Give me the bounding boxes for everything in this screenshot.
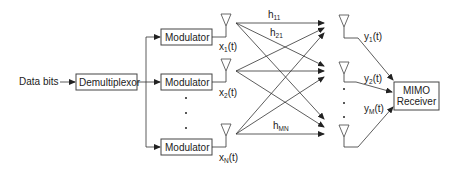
hMN-label: hMN — [273, 120, 289, 132]
y2-label: y2(t) — [364, 73, 382, 85]
tx2-feed — [212, 71, 226, 82]
ellipsis-dot — [185, 127, 187, 129]
rx-antenna-1-icon — [339, 15, 349, 27]
receiver-line2: Receiver — [397, 96, 437, 107]
tx-antenna-2-icon — [221, 59, 231, 71]
modulator-1-label: Modulator — [165, 32, 210, 43]
mimo-system-diagram: Data bits Demultiplexor Modulator Modula… — [0, 0, 458, 169]
demultiplexor-block: Demultiplexor — [76, 74, 141, 90]
h21-label: h21 — [270, 27, 283, 39]
h11-label: h11 — [268, 9, 281, 21]
data-bits-label: Data bits — [19, 76, 58, 87]
tx-antenna-n-icon — [221, 124, 231, 136]
yM-label: yM(t) — [364, 103, 384, 115]
y1-label: y1(t) — [364, 31, 382, 43]
rx-antenna-2-icon — [339, 62, 349, 74]
ellipsis-dot — [185, 112, 187, 114]
modulator-1: Modulator — [161, 29, 212, 45]
txN-feed — [212, 136, 226, 147]
tx1-feed — [212, 26, 226, 37]
mimo-receiver-block: MIMO Receiver — [394, 82, 439, 110]
ellipsis-dot — [343, 102, 345, 104]
x1-label: x1(t) — [219, 41, 237, 53]
modulator-n-label: Modulator — [165, 142, 210, 153]
tx-antenna-1-icon — [221, 14, 231, 26]
ellipsis-dot — [343, 116, 345, 118]
rx-antenna-m-icon — [339, 125, 349, 137]
demultiplexor-label: Demultiplexor — [79, 77, 141, 88]
modulator-2: Modulator — [161, 74, 212, 90]
xN-label: xN(t) — [219, 152, 238, 164]
channel-paths — [236, 23, 324, 134]
ellipsis-dot — [343, 88, 345, 90]
modulator-2-label: Modulator — [165, 77, 210, 88]
modulator-n: Modulator — [161, 139, 212, 155]
ellipsis-dot — [185, 97, 187, 99]
receiver-line1: MIMO — [403, 85, 430, 96]
x2-label: x2(t) — [219, 87, 237, 99]
